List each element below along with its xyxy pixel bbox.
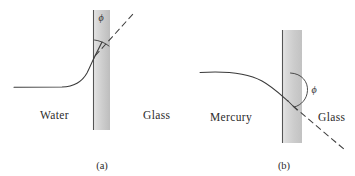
contact-angle-figure: ϕ Water Glass (a) ϕ Mercury Glass (b) bbox=[0, 0, 355, 176]
glass-slab-a bbox=[93, 10, 110, 130]
figure-container: ϕ Water Glass (a) ϕ Mercury Glass (b) bbox=[0, 0, 355, 176]
solid-label-glass-b: Glass bbox=[318, 111, 345, 123]
solid-label-glass-a: Glass bbox=[143, 109, 170, 121]
angle-symbol-a: ϕ bbox=[98, 12, 103, 23]
liquid-label-water: Water bbox=[40, 109, 69, 121]
liquid-label-mercury: Mercury bbox=[210, 111, 252, 124]
panel-caption-b: (b) bbox=[278, 160, 291, 172]
panel-caption-a: (a) bbox=[96, 160, 108, 172]
angle-symbol-b: ϕ bbox=[311, 84, 316, 95]
glass-slab-b bbox=[282, 30, 302, 143]
